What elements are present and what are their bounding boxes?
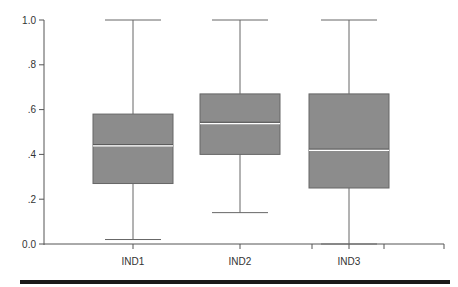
y-tick-label: .4 — [28, 149, 37, 160]
box-ind3 — [309, 94, 389, 188]
x-category-label: IND2 — [229, 256, 252, 267]
x-category-label: IND1 — [122, 256, 145, 267]
y-tick-label: .8 — [28, 59, 37, 70]
box-plot-chart: 0.0.2.4.6.81.0IND1IND2IND3 — [0, 0, 458, 287]
y-tick-label: 0.0 — [22, 239, 36, 250]
x-category-label: IND3 — [338, 256, 361, 267]
box-ind2 — [200, 94, 280, 154]
y-tick-label: 1.0 — [22, 15, 36, 26]
y-tick-label: .6 — [28, 104, 37, 115]
bottom-rule — [20, 280, 450, 284]
box-ind1 — [93, 114, 173, 183]
y-tick-label: .2 — [28, 194, 37, 205]
